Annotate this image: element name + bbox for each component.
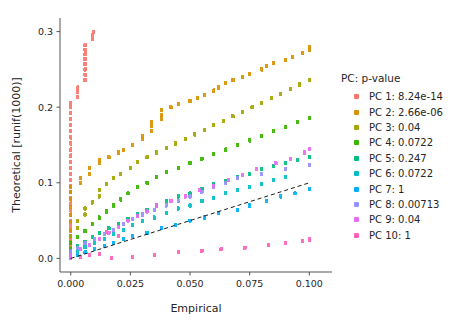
legend-swatch-icon	[354, 171, 359, 176]
legend-items: PC 1: 8.24e-14PC 2: 2.66e-06PC 3: 0.04PC…	[340, 89, 464, 243]
legend-swatch-icon	[354, 110, 359, 115]
y-axis-title: Theoretical [runif(1000)]	[10, 77, 23, 214]
legend-item-pc-5[interactable]: PC 5: 0.247	[340, 151, 464, 166]
legend-item-pc-10[interactable]: PC 10: 1	[340, 228, 464, 243]
x-axis-title: Empirical	[170, 302, 221, 315]
legend-swatch-icon	[354, 94, 359, 99]
legend-item-pc-6[interactable]: PC 6: 0.0722	[340, 166, 464, 181]
legend-swatch-icon	[354, 156, 359, 161]
legend-item-label: PC 6: 0.0722	[369, 168, 433, 179]
legend-swatch-icon	[354, 217, 359, 222]
legend-item-pc-9[interactable]: PC 9: 0.04	[340, 212, 464, 227]
legend-swatch-icon	[354, 202, 359, 207]
legend-item-label: PC 8: 0.00713	[369, 199, 439, 210]
legend-item-label: PC 10: 1	[369, 230, 411, 241]
legend-item-pc-3[interactable]: PC 3: 0.04	[340, 120, 464, 135]
legend-item-pc-1[interactable]: PC 1: 8.24e-14	[340, 89, 464, 104]
legend-swatch-icon	[354, 140, 359, 145]
legend-item-pc-7[interactable]: PC 7: 1	[340, 181, 464, 196]
legend-item-pc-8[interactable]: PC 8: 0.00713	[340, 197, 464, 212]
legend-swatch-icon	[354, 125, 359, 130]
legend-title: PC: p-value	[341, 72, 464, 84]
legend: PC: p-value PC 1: 8.24e-14PC 2: 2.66e-06…	[340, 72, 464, 243]
legend-item-label: PC 9: 0.04	[369, 214, 420, 225]
legend-swatch-icon	[354, 187, 359, 192]
legend-swatch-icon	[354, 233, 359, 238]
legend-item-label: PC 4: 0.0722	[369, 137, 433, 148]
legend-item-label: PC 1: 8.24e-14	[369, 91, 443, 102]
qq-plot-figure: 0.00.10.20.30.0000.0250.0500.0750.100 Th…	[0, 0, 466, 323]
legend-item-label: PC 2: 2.66e-06	[369, 107, 443, 118]
legend-item-label: PC 5: 0.247	[369, 153, 427, 164]
legend-item-pc-2[interactable]: PC 2: 2.66e-06	[340, 104, 464, 119]
legend-item-label: PC 3: 0.04	[369, 122, 420, 133]
legend-item-pc-4[interactable]: PC 4: 0.0722	[340, 135, 464, 150]
legend-item-label: PC 7: 1	[369, 184, 404, 195]
